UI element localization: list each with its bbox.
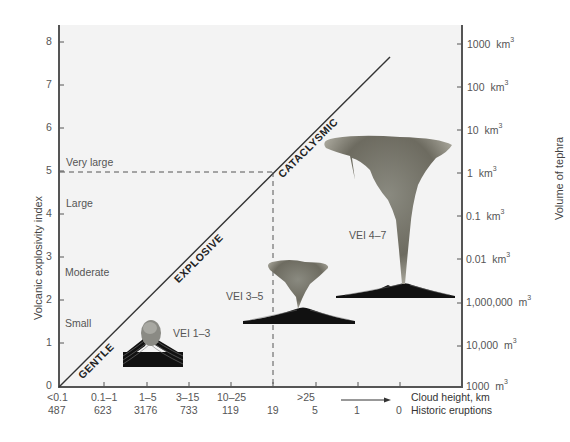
class-very-large: Very large <box>66 156 113 168</box>
right-tick-1000km3: 1000 km3 <box>467 38 514 50</box>
hist-1: 623 <box>94 404 112 416</box>
right-tick-0.1km3: 0.1 km3 <box>466 210 504 222</box>
class-moderate: Moderate <box>65 266 109 278</box>
hist-6: 5 <box>312 404 318 416</box>
x-cat-6: >25 <box>297 391 315 403</box>
hist-2: 3176 <box>134 404 157 416</box>
right-tick-10000m3: 10,000 m3 <box>466 339 517 351</box>
y-tick-2: 2 <box>46 293 52 305</box>
y-tick-4: 4 <box>46 207 52 219</box>
right-tick-0.01km3: 0.01 km3 <box>466 253 510 265</box>
y-tick-0: 0 <box>46 379 52 391</box>
x-cat-0: <0.1 <box>47 391 68 403</box>
y-tick-1: 1 <box>46 336 52 348</box>
y-axis-title: Volcanic explosivity index <box>32 196 44 320</box>
right-tick-100km3: 100 km3 <box>467 81 508 93</box>
volcano-large-icon <box>324 136 455 298</box>
class-small: Small <box>65 317 91 329</box>
annotation-vei-1-3: VEI 1–3 <box>173 327 210 339</box>
hist-5: 19 <box>267 404 279 416</box>
hist-3: 733 <box>180 404 198 416</box>
y-tick-5: 5 <box>46 164 52 176</box>
class-large: Large <box>66 197 93 209</box>
x-cat-1: 0.1–1 <box>91 391 117 403</box>
y-tick-6: 6 <box>46 121 52 133</box>
historic-eruptions-title: Historic eruptions <box>411 404 492 416</box>
hist-0: 487 <box>48 404 66 416</box>
hist-4: 119 <box>222 404 239 416</box>
y-tick-3: 3 <box>46 250 52 262</box>
x-cat-3: 3–15 <box>176 391 199 403</box>
y-tick-7: 7 <box>46 78 52 90</box>
right-tick-1000000m3: 1,000,000 m3 <box>466 296 531 308</box>
y-tick-8: 8 <box>46 35 52 47</box>
right-tick-1km3: 1 km3 <box>467 167 497 179</box>
hist-8: 0 <box>396 404 402 416</box>
annotation-vei-3-5: VEI 3–5 <box>226 290 263 302</box>
right-axis-title: Volume of tephra <box>553 137 565 220</box>
x-cat-2: 1–5 <box>139 391 157 403</box>
hist-7: 1 <box>354 404 360 416</box>
right-tick-10km3: 10 km3 <box>467 124 502 136</box>
x-cat-4: 10–25 <box>217 391 246 403</box>
x-axis-title: Cloud height, km <box>411 391 490 403</box>
annotation-vei-4-7: VEI 4–7 <box>349 229 386 241</box>
